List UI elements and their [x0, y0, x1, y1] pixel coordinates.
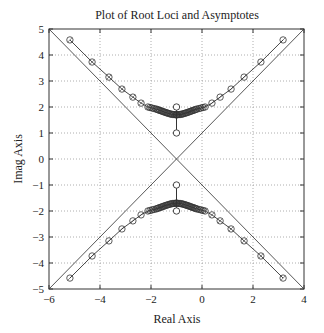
x-tick-label: 0: [199, 293, 205, 305]
y-axis-label: Imag Axis: [11, 134, 25, 184]
y-tick-label: −3: [32, 231, 44, 243]
x-axis-label: Real Axis: [154, 312, 201, 326]
root-locus-chart: Plot of Root Loci and Asymptotes −6−4−20…: [0, 0, 324, 333]
y-tick-label: 2: [39, 101, 45, 113]
y-tick-label: −4: [32, 257, 44, 269]
open-loop-marker: [173, 182, 179, 188]
x-tick-label: −2: [145, 293, 157, 305]
y-tick-label: −2: [32, 205, 44, 217]
x-tick-label: 2: [250, 293, 256, 305]
x-tick-label: −6: [43, 293, 55, 305]
x-tick-label: 4: [301, 293, 307, 305]
open-loop-marker: [173, 104, 179, 110]
y-tick-label: 3: [39, 75, 45, 87]
y-tick-label: 5: [39, 23, 45, 35]
y-tick-label: −5: [32, 283, 44, 295]
open-loop-marker: [173, 208, 179, 214]
y-tick-label: 1: [39, 127, 45, 139]
y-tick-label: 4: [39, 49, 45, 61]
y-tick-label: 0: [39, 153, 45, 165]
y-tick-label: −1: [32, 179, 44, 191]
x-tick-label: −4: [94, 293, 106, 305]
open-loop-marker: [173, 130, 179, 136]
chart-title: Plot of Root Loci and Asymptotes: [95, 8, 259, 22]
